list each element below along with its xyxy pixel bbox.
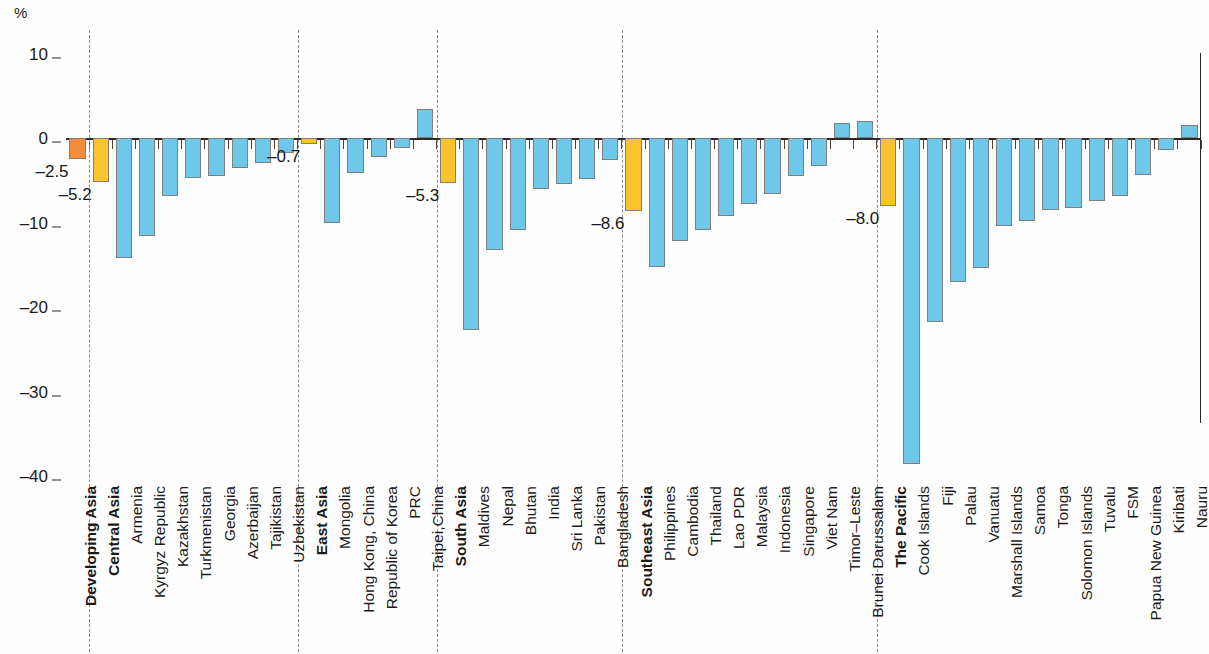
x-axis-label-singapore: Singapore xyxy=(801,486,817,557)
x-axis-tick-mark xyxy=(1154,140,1155,149)
bar-viet-nam xyxy=(811,138,827,166)
bar-pakistan xyxy=(579,138,595,179)
bar-tonga xyxy=(1042,138,1058,210)
x-axis-label-fiji: Fiji xyxy=(940,486,956,506)
x-axis-tick-mark xyxy=(598,140,599,149)
bar-thailand xyxy=(695,138,711,230)
x-axis-tick-mark xyxy=(343,140,344,149)
y-axis-unit-label: % xyxy=(14,5,27,20)
x-axis-label-the-pacific: The Pacific xyxy=(893,486,909,568)
bar-singapore xyxy=(788,138,804,176)
y-axis-tick-mark xyxy=(52,57,61,58)
bar-india xyxy=(533,138,549,189)
x-axis-label-india: India xyxy=(546,486,562,520)
x-axis-label-turkmenistan: Turkmenistan xyxy=(198,486,214,579)
x-axis-label-nauru: Nauru xyxy=(1194,486,1209,528)
bar-kyrgyz-republic xyxy=(139,138,155,236)
bar-brunei-darussalam xyxy=(857,121,873,138)
bar-samoa xyxy=(1019,138,1035,221)
bar-vanuatu xyxy=(973,138,989,268)
x-axis-tick-mark xyxy=(1015,140,1016,149)
bar-mongolia xyxy=(324,138,340,223)
x-axis-label-central-asia: Central Asia xyxy=(106,486,122,576)
x-axis-tick-mark xyxy=(1131,140,1132,149)
bar-tuvalu xyxy=(1089,138,1105,201)
x-axis-tick-mark xyxy=(1038,140,1039,149)
x-axis-tick-mark xyxy=(807,140,808,149)
bar-marshall-islands xyxy=(996,138,1012,226)
x-axis-tick-mark xyxy=(367,140,368,149)
x-axis-label-taipei-china: Taipei,China xyxy=(430,486,446,571)
x-axis-label-thailand: Thailand xyxy=(708,486,724,545)
x-axis-tick-mark xyxy=(645,140,646,149)
x-axis-tick-mark xyxy=(969,140,970,149)
x-axis-tick-mark xyxy=(482,140,483,149)
x-axis-label-developing-asia: Developing Asia xyxy=(83,486,99,606)
x-axis-label-kyrgyz-republic: Kyrgyz Republic xyxy=(152,486,168,598)
x-axis-tick-mark xyxy=(1085,140,1086,149)
bar-cook-islands xyxy=(903,138,919,464)
x-axis-label-kazakhstan: Kazakhstan xyxy=(175,486,191,567)
x-axis-label-viet-nam: Viet Nam xyxy=(824,486,840,549)
bar-bhutan xyxy=(510,138,526,230)
x-axis-tick-mark xyxy=(228,140,229,149)
x-axis-tick-mark xyxy=(575,140,576,149)
bar-the-pacific xyxy=(880,138,896,206)
bar-philippines xyxy=(649,138,665,267)
x-axis-tick-mark xyxy=(946,140,947,149)
x-axis-label-southeast-asia: Southeast Asia xyxy=(639,486,655,597)
bar-solomon-islands xyxy=(1065,138,1081,208)
x-axis-label-pakistan: Pakistan xyxy=(592,486,608,545)
x-axis-label-indonesia: Indonesia xyxy=(777,486,793,553)
x-axis-label-papua-new-guinea: Papua New Guinea xyxy=(1148,486,1164,620)
x-axis-label-nepal: Nepal xyxy=(500,486,516,527)
x-axis-tick-mark xyxy=(251,140,252,149)
bar-east-asia xyxy=(301,138,317,144)
x-axis-label-sri-lanka: Sri Lanka xyxy=(569,486,585,551)
bar-kiribati xyxy=(1158,138,1174,150)
bar-southeast-asia xyxy=(625,138,641,211)
bar-nepal xyxy=(486,138,502,250)
y-axis-tick-label: –40 xyxy=(0,468,48,485)
y-axis-tick-label: –10 xyxy=(0,214,48,231)
bar-central-asia xyxy=(93,138,109,182)
x-axis-label-prc: PRC xyxy=(407,486,423,519)
x-axis-tick-mark xyxy=(158,140,159,149)
y-axis-tick-mark xyxy=(52,395,61,396)
value-callout-southeast-asia: –8.6 xyxy=(591,215,624,232)
y-axis-tick-label: –20 xyxy=(0,299,48,316)
value-callout-south-asia: –5.3 xyxy=(406,187,439,204)
value-callout-east-asia: –0.7 xyxy=(267,148,300,165)
x-axis-tick-mark xyxy=(390,140,391,149)
x-axis-tick-mark xyxy=(737,140,738,149)
category-axis-labels: Developing AsiaCentral AsiaArmeniaKyrgyz… xyxy=(66,486,1201,654)
x-axis-label-azerbaijan: Azerbaijan xyxy=(245,486,261,559)
x-axis-tick-mark xyxy=(992,140,993,149)
x-axis-label-samoa: Samoa xyxy=(1032,486,1048,535)
x-axis-tick-mark xyxy=(320,140,321,149)
y-axis-tick-label: 10 xyxy=(0,45,48,62)
x-axis-label-philippines: Philippines xyxy=(662,486,678,561)
x-axis-tick-mark xyxy=(1177,140,1178,149)
x-axis-label-bangladesh: Bangladesh xyxy=(615,486,631,568)
value-callout-central-asia: –5.2 xyxy=(59,186,92,203)
bar-azerbaijan xyxy=(232,138,248,168)
x-axis-label-armenia: Armenia xyxy=(129,486,145,544)
bar-indonesia xyxy=(764,138,780,194)
x-axis-tick-mark xyxy=(899,140,900,149)
bar-bangladesh xyxy=(602,138,618,160)
x-axis-tick-mark xyxy=(459,140,460,149)
x-axis-label-palau: Palau xyxy=(963,486,979,526)
x-axis-label-vanuatu: Vanuatu xyxy=(986,486,1002,543)
x-axis-tick-mark xyxy=(181,140,182,149)
bar-kazakhstan xyxy=(162,138,178,196)
x-axis-label-cambodia: Cambodia xyxy=(685,486,701,557)
y-axis-tick-mark xyxy=(52,226,61,227)
y-axis-tick-label: 0 xyxy=(0,130,48,147)
x-axis-label-brunei-darussalam: Brunei Darussalam xyxy=(870,486,886,618)
x-axis-label-republic-of-korea: Republic of Korea xyxy=(384,486,400,609)
value-callout-the-pacific: –8.0 xyxy=(846,210,879,227)
x-axis-label-malaysia: Malaysia xyxy=(754,486,770,547)
x-axis-label-georgia: Georgia xyxy=(222,486,238,541)
bar-republic-of-korea xyxy=(371,138,387,157)
